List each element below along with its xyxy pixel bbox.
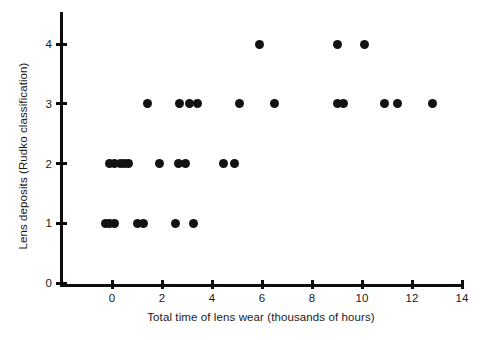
x-axis-title: Total time of lens wear (thousands of ho… (60, 311, 462, 323)
data-point (333, 99, 342, 108)
data-point (105, 219, 114, 228)
y-tick-label: 4 (36, 38, 52, 50)
data-point (185, 99, 194, 108)
x-tick-label: 14 (455, 292, 468, 304)
x-tick-label: 10 (355, 292, 368, 304)
data-point (174, 159, 183, 168)
data-point-layer (0, 0, 482, 340)
y-tick-mark (56, 102, 67, 105)
data-point (143, 99, 152, 108)
x-tick-mark (361, 280, 364, 289)
data-point (255, 40, 264, 49)
data-point (193, 99, 202, 108)
y-tick-mark (56, 222, 67, 225)
x-tick-label: 4 (209, 292, 216, 304)
data-point (219, 159, 228, 168)
data-point (171, 219, 180, 228)
y-axis-title: Lens deposits (Rudko classification) (17, 41, 29, 271)
data-point (181, 159, 190, 168)
x-tick-mark (411, 280, 414, 289)
data-point (116, 159, 125, 168)
y-tick-label: 3 (36, 98, 52, 110)
data-point (120, 159, 129, 168)
x-tick-mark (311, 280, 314, 289)
data-point (110, 219, 119, 228)
data-point (235, 99, 244, 108)
data-point (333, 40, 342, 49)
x-tick-label: 2 (159, 292, 166, 304)
data-point (189, 219, 198, 228)
data-point (428, 99, 437, 108)
x-tick-label: 0 (109, 292, 116, 304)
x-tick-label: 8 (309, 292, 316, 304)
x-tick-mark (261, 280, 264, 289)
data-point (360, 40, 369, 49)
y-tick-label: 0 (36, 277, 52, 289)
y-tick-mark (56, 282, 67, 285)
data-point (139, 219, 148, 228)
data-point (175, 99, 184, 108)
x-tick-mark (111, 280, 114, 289)
data-point (380, 99, 389, 108)
x-tick-label: 6 (259, 292, 266, 304)
data-point (124, 159, 133, 168)
data-point (270, 99, 279, 108)
data-point (393, 99, 402, 108)
scatter-plot-figure: 02468101214 01234 Total time of lens wea… (0, 0, 482, 340)
x-tick-mark (211, 280, 214, 289)
y-axis-line (60, 12, 63, 286)
y-tick-mark (56, 43, 67, 46)
y-tick-label: 2 (36, 158, 52, 170)
x-tick-mark (161, 280, 164, 289)
x-tick-label: 12 (405, 292, 418, 304)
data-point (155, 159, 164, 168)
data-point (110, 159, 119, 168)
y-tick-label: 1 (36, 217, 52, 229)
y-tick-mark (56, 162, 67, 165)
data-point (230, 159, 239, 168)
x-tick-mark (461, 280, 464, 289)
data-point (101, 219, 110, 228)
data-point (133, 219, 142, 228)
data-point (105, 159, 114, 168)
data-point (339, 99, 348, 108)
